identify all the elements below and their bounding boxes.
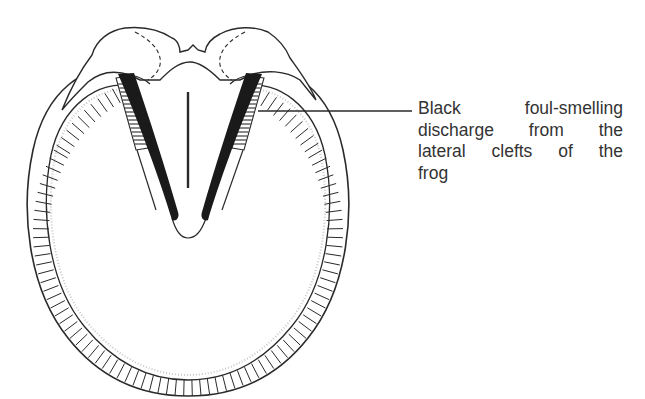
annotation-label: Black foul-smelling discharge from the l… bbox=[418, 98, 623, 184]
hoof-diagram bbox=[0, 0, 645, 399]
annotation-line-1: Black foul-smelling bbox=[418, 98, 623, 120]
annotation-line-2: discharge from the bbox=[418, 120, 623, 142]
annotation-line-3: lateral clefts of the bbox=[418, 141, 623, 163]
annotation-line-4: frog bbox=[418, 163, 623, 185]
